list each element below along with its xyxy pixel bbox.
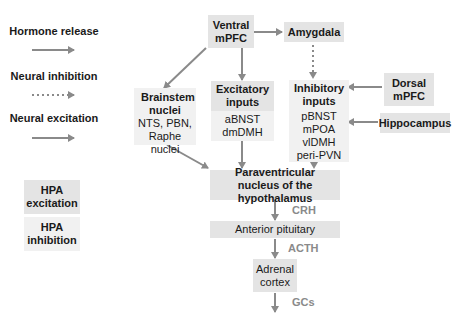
node-adrenal-cortex: Adrenal cortex bbox=[253, 259, 297, 292]
hormone-acth-label: ACTH bbox=[288, 242, 319, 254]
legend-hpa-inhibition-box: HPA inhibition bbox=[24, 217, 80, 251]
legend-neural-excitation-label: Neural excitation bbox=[0, 112, 108, 125]
hormone-gcs-label: GCs bbox=[292, 296, 315, 308]
node-excitatory: Excitatory inputs aBNST dmDMH bbox=[211, 81, 274, 141]
node-pvn: Paraventricular nucleus of the hypothala… bbox=[210, 170, 340, 200]
excitatory-title: Excitatory inputs bbox=[211, 81, 274, 111]
node-anterior-pituitary: Anterior pituitary bbox=[210, 221, 340, 238]
node-amygdala: Amygdala bbox=[284, 22, 344, 42]
brainstem-items: NTS, PBN, Raphe nuclei bbox=[135, 117, 195, 156]
node-hippocampus: Hippocampus bbox=[380, 113, 450, 133]
node-inhibitory: Inhibitory inputs pBNST mPOA vlDMH peri-… bbox=[289, 80, 343, 144]
excitatory-item: aBNST bbox=[225, 113, 260, 126]
inhibitory-item: mPOA bbox=[303, 123, 335, 136]
arrows-layer bbox=[0, 0, 466, 329]
inhibitory-items: pBNST mPOA vlDMH peri-PVN bbox=[289, 110, 349, 162]
excitatory-items: aBNST dmDMH bbox=[211, 111, 274, 141]
brainstem-title: Brainstem nuclei bbox=[141, 91, 189, 117]
excitatory-item: dmDMH bbox=[222, 126, 262, 139]
node-ventral-mpfc: Ventral mPFC bbox=[208, 15, 254, 48]
node-dorsal-mpfc: Dorsal mPFC bbox=[384, 73, 434, 106]
legend-neural-inhibition-label: Neural inhibition bbox=[0, 70, 108, 83]
node-brainstem: Brainstem nuclei NTS, PBN, Raphe nuclei bbox=[134, 88, 196, 145]
legend-hormone-release-label: Hormone release bbox=[0, 25, 108, 38]
inhibitory-item: peri-PVN bbox=[297, 149, 342, 162]
hormone-crh-label: CRH bbox=[292, 204, 316, 216]
legend-hpa-excitation-box: HPA excitation bbox=[24, 180, 80, 214]
inhibitory-title: Inhibitory inputs bbox=[289, 80, 349, 110]
inhibitory-item: vlDMH bbox=[303, 136, 336, 149]
inhibitory-item: pBNST bbox=[301, 110, 336, 123]
